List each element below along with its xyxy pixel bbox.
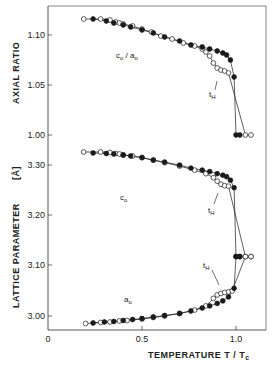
ytick-3-20: 3.20 [27,210,45,220]
open-data-point [211,175,216,180]
filled-data-point [177,163,182,168]
filled-data-point [104,151,109,156]
open-data-point [207,54,212,59]
filled-data-point [151,158,156,163]
label-tH-lower: tH [203,261,210,271]
open-data-point [226,71,231,76]
x-axis: 0 0.5 1.0 TEMPERATURE T / Tc [45,326,249,361]
filled-data-point [177,39,182,44]
filled-data-point [111,152,116,157]
open-data-point [211,296,216,301]
filled-data-point [224,53,229,58]
filled-data-point [228,178,233,183]
filled-data-point [237,133,242,138]
filled-data-point [200,45,205,50]
lattice-parameter-figure: 1.10 1.05 1.00 AXIAL RATIO 3.30 3.20 3.1… [0,0,273,365]
filled-data-point [102,320,107,325]
filled-data-point [151,315,156,320]
open-data-point [81,150,86,155]
filled-data-point [207,47,212,52]
filled-data-point [237,254,242,259]
label-c0: co [120,193,128,203]
filled-data-point [215,49,220,54]
xtick-0-5: 0.5 [136,334,149,344]
filled-data-point [162,35,167,40]
xtick-1-0: 1.0 [230,334,243,344]
series-line [93,257,240,323]
xtick-0: 0 [45,334,50,344]
filled-data-point [91,151,96,156]
ytick-1-00: 1.00 [27,130,45,140]
filled-data-point [200,168,205,173]
ytick-1-10: 1.10 [27,30,45,40]
open-data-point [211,61,216,66]
upper-y-axis: 1.10 1.05 1.00 AXIAL RATIO [11,30,52,140]
open-data-point [243,254,248,259]
ytick-3-30: 3.30 [27,160,45,170]
filled-data-point [226,295,231,300]
series-line [84,19,251,135]
series-line [84,152,251,257]
label-tH-upper: tH [209,90,216,100]
x-axis-title: TEMPERATURE T / Tc [148,350,250,361]
chart-canvas: 1.10 1.05 1.00 AXIAL RATIO 3.30 3.20 3.1… [0,0,273,365]
filled-data-point [128,154,133,159]
filled-data-point [91,17,96,22]
ytick-3-10: 3.10 [27,260,45,270]
filled-data-point [162,313,167,318]
filled-data-point [232,286,237,291]
label-tH-middle: tH [208,206,215,216]
filled-data-point [200,306,205,311]
lower-y-axis: 3.30 3.20 3.10 3.00 LATTICE PARAMETER [Å… [11,160,52,321]
filled-data-point [189,43,194,48]
filled-data-point [224,174,229,179]
filled-data-point [151,31,156,36]
data-series [81,17,253,326]
open-data-point [83,321,88,326]
filled-data-point [228,58,233,63]
filled-data-point [140,28,145,33]
filled-data-point [121,318,126,323]
filled-data-point [232,185,237,190]
filled-data-point [104,19,109,24]
open-data-point [98,150,103,155]
open-data-point [81,17,86,22]
filled-data-point [121,23,126,28]
filled-data-point [162,160,167,165]
lower-y-axis-title: LATTICE PARAMETER [11,203,21,308]
filled-data-point [91,321,96,326]
upper-y-axis-title: AXIAL RATIO [11,42,21,104]
series-line [86,257,251,324]
lower-y-axis-unit: [Å] [11,166,21,180]
filled-data-point [140,316,145,321]
filled-data-point [207,304,212,309]
filled-data-point [111,319,116,324]
label-a0: ao [124,295,132,305]
open-data-point [170,37,175,42]
open-data-point [249,254,254,259]
open-data-point [226,184,231,189]
annotations: co / ao co ao tH tH tH [116,51,219,305]
plot-frame [48,6,266,330]
filled-data-point [121,153,126,158]
filled-data-point [189,166,194,171]
filled-data-point [232,75,237,80]
series-line [93,153,240,257]
label-c0-over-a0: co / ao [116,51,138,61]
ytick-1-05: 1.05 [27,80,45,90]
filled-data-point [130,317,135,322]
filled-data-point [189,309,194,314]
filled-data-point [177,311,182,316]
filled-data-point [128,25,133,30]
filled-data-point [215,301,220,306]
filled-data-point [207,169,212,174]
ytick-3-00: 3.00 [27,311,45,321]
filled-data-point [140,155,145,160]
filled-data-point [111,21,116,26]
open-data-point [249,133,254,138]
open-data-point [98,17,103,22]
filled-data-point [220,299,225,304]
filled-data-point [215,171,220,176]
open-data-point [243,133,248,138]
